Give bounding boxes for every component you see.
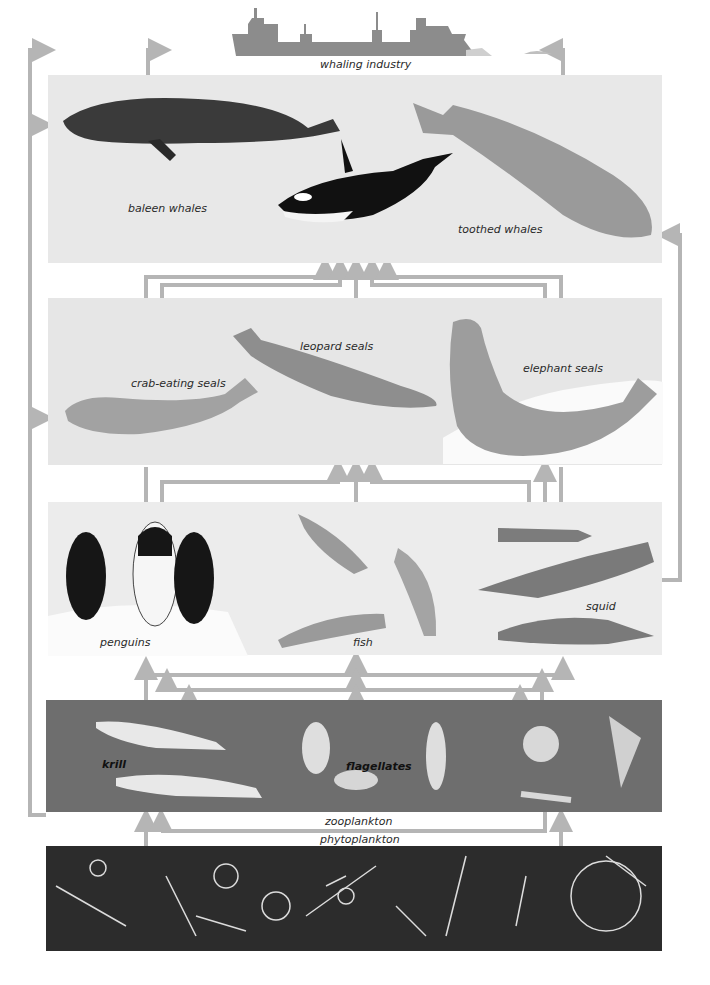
zooplankton-panel: krill flagellates	[46, 700, 662, 812]
whales-panel: baleen whales toothed whales	[48, 75, 662, 263]
fish-label: fish	[353, 636, 373, 649]
fish-illustration	[268, 502, 468, 656]
krill-illustration	[56, 708, 286, 812]
krill-label: krill	[102, 758, 126, 771]
whaling-ship-illustration	[230, 4, 560, 56]
elephant-seals-label: elephant seals	[523, 362, 603, 375]
flagellates-label: flagellates	[346, 760, 412, 773]
phytoplankton-label: phytoplankton	[320, 833, 400, 846]
squid-label: squid	[586, 600, 616, 613]
baleen-whales-label: baleen whales	[128, 202, 207, 215]
elephant-seal-illustration	[443, 316, 663, 468]
whaling-industry-label: whaling industry	[320, 58, 411, 71]
toothed-whales-label: toothed whales	[458, 223, 543, 236]
zooplankton-label: zooplankton	[325, 815, 392, 828]
leopard-seals-label: leopard seals	[300, 340, 373, 353]
crab-eating-seals-label: crab-eating seals	[131, 377, 226, 390]
penguins-label: penguins	[100, 636, 150, 649]
diatoms-illustration	[46, 846, 662, 955]
seals-panel: leopard seals crab-eating seals elephant…	[48, 298, 662, 465]
radiolarians-illustration	[501, 708, 651, 812]
phytoplankton-panel	[46, 846, 662, 951]
penguins-fish-squid-panel: penguins fish squid	[48, 502, 662, 655]
squid-illustration	[468, 512, 668, 656]
